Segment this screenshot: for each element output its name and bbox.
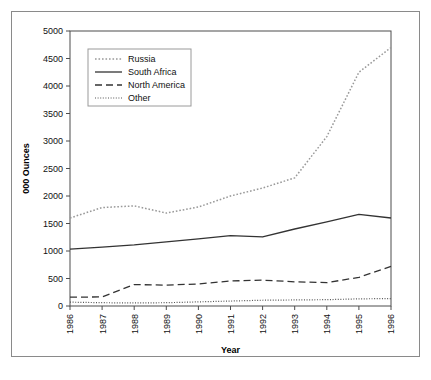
y-axis-tick-label: 3500 bbox=[43, 109, 63, 119]
x-axis-tick-label: 1991 bbox=[226, 314, 236, 334]
y-axis-tick-label: 500 bbox=[48, 274, 63, 284]
legend-label-other: Other bbox=[128, 93, 151, 103]
x-axis-tick-label: 1995 bbox=[354, 314, 364, 334]
series-line-north-america bbox=[70, 266, 391, 297]
x-axis-tick-label: 1987 bbox=[98, 314, 108, 334]
y-axis-tick-label: 1000 bbox=[43, 246, 63, 256]
x-axis-tick-label: 1994 bbox=[322, 314, 332, 334]
y-axis-tick-label: 0 bbox=[58, 301, 63, 311]
y-axis-tick-label: 2500 bbox=[43, 164, 63, 174]
series-line-other bbox=[70, 299, 391, 303]
x-axis-tick-label: 1993 bbox=[290, 314, 300, 334]
line-chart: 0500100015002000250030003500400045005000… bbox=[12, 12, 419, 356]
y-axis-tick-label: 4500 bbox=[43, 54, 63, 64]
x-axis-tick-label: 1996 bbox=[386, 314, 396, 334]
x-axis-tick-label: 1992 bbox=[258, 314, 268, 334]
y-axis-tick-label: 2000 bbox=[43, 191, 63, 201]
legend-label-south-africa: South Africa bbox=[128, 67, 177, 77]
y-axis-tick-label: 1500 bbox=[43, 219, 63, 229]
series-line-south-africa bbox=[70, 214, 391, 249]
x-axis-tick-label: 1988 bbox=[130, 314, 140, 334]
x-axis-tick-label: 1990 bbox=[194, 314, 204, 334]
y-axis-tick-label: 3000 bbox=[43, 136, 63, 146]
x-axis-tick-label: 1989 bbox=[162, 314, 172, 334]
y-axis-tick-label: 5000 bbox=[43, 26, 63, 36]
x-axis-tick-label: 1986 bbox=[65, 314, 75, 334]
x-axis-title: Year bbox=[221, 345, 241, 355]
chart-figure-frame: 0500100015002000250030003500400045005000… bbox=[11, 11, 420, 357]
legend-label-north-america: North America bbox=[128, 80, 185, 90]
y-axis-title: 000 Ounces bbox=[21, 143, 31, 194]
legend-label-russia: Russia bbox=[128, 54, 156, 64]
y-axis-tick-label: 4000 bbox=[43, 81, 63, 91]
